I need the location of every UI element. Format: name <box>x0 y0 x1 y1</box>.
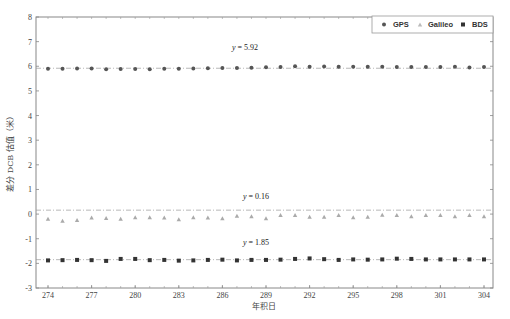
x-axis-title: 年积日 <box>252 301 276 311</box>
y-tick-label: 0 <box>28 210 32 219</box>
x-tick-label: 301 <box>434 291 446 300</box>
legend-galileo: Galileo <box>428 20 453 29</box>
legend: GPS Galileo BDS <box>372 16 493 33</box>
y-tick-label: 4 <box>28 112 32 121</box>
x-tick-label: 298 <box>391 291 403 300</box>
mean-annotation: y = 0.16 <box>242 192 269 201</box>
legend-gps: GPS <box>393 20 409 29</box>
x-tick-label: 295 <box>347 291 359 300</box>
gps-legend-icon <box>382 23 386 27</box>
y-tick-label: -2 <box>25 259 32 268</box>
y-axis-title: 差分 DCB 估值（米） <box>5 112 15 192</box>
x-tick-label: 277 <box>86 291 98 300</box>
x-tick-label: 274 <box>42 291 54 300</box>
y-tick-label: 2 <box>28 161 32 170</box>
y-tick-label: 8 <box>28 13 32 22</box>
y-tick-label: 1 <box>28 185 32 194</box>
y-tick-label: 6 <box>28 62 32 71</box>
y-tick-label: 7 <box>28 38 32 47</box>
x-tick-label: 283 <box>173 291 185 300</box>
y-tick-label: 5 <box>28 87 32 96</box>
x-tick-label: 289 <box>260 291 272 300</box>
x-tick-label: 304 <box>478 291 490 300</box>
legend-bds: BDS <box>472 20 488 29</box>
mean-annotation: y = 1.85 <box>242 238 269 247</box>
bds-legend-icon <box>461 23 465 27</box>
dcb-chart: -3-2-1012345678 274277280283286289292295… <box>0 0 510 319</box>
y-tick-label: 3 <box>28 136 32 145</box>
x-tick-label: 286 <box>216 291 228 300</box>
x-tick-label: 292 <box>304 291 316 300</box>
y-tick-label: -3 <box>25 284 32 293</box>
x-tick-label: 280 <box>129 291 141 300</box>
plot-area <box>36 17 493 288</box>
mean-annotation: y = 5.92 <box>231 43 258 52</box>
y-tick-label: -1 <box>25 235 32 244</box>
